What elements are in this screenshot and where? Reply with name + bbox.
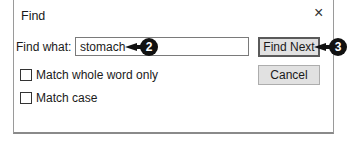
match-whole-word-label: Match whole word only xyxy=(36,68,158,82)
callout-2: 2 xyxy=(125,38,158,56)
callout-3: 3 xyxy=(314,38,347,56)
match-whole-word-checkbox[interactable]: Match whole word only xyxy=(20,68,158,82)
match-case-label: Match case xyxy=(36,91,97,105)
callout-badge: 2 xyxy=(140,38,158,56)
checkbox-icon[interactable] xyxy=(20,69,32,81)
find-dialog: Find × Find what: stomach 2 Find Next 3 … xyxy=(13,0,334,134)
cancel-button[interactable]: Cancel xyxy=(258,65,320,85)
find-what-value: stomach xyxy=(80,40,125,54)
find-what-label: Find what: xyxy=(16,40,71,54)
find-next-button[interactable]: Find Next xyxy=(258,37,320,57)
close-icon[interactable]: × xyxy=(314,5,323,21)
checkbox-icon[interactable] xyxy=(20,92,32,104)
match-case-checkbox[interactable]: Match case xyxy=(20,91,97,105)
find-what-input[interactable]: stomach xyxy=(75,37,249,56)
callout-badge: 3 xyxy=(329,38,347,56)
dialog-title: Find xyxy=(21,9,45,23)
